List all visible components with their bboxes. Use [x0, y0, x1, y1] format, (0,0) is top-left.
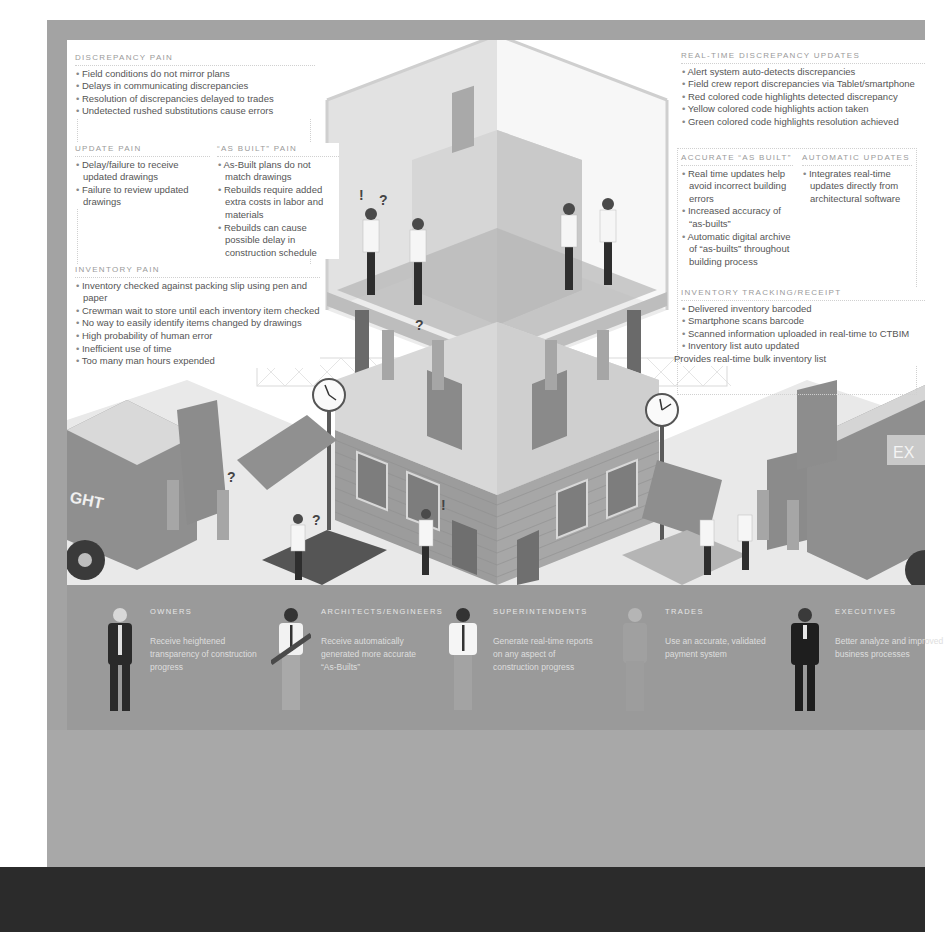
svg-text:!: !: [441, 497, 446, 513]
infographic-poster: GHT EX: [67, 40, 925, 585]
list-item: Increased accuracy of “as-builts”: [681, 205, 793, 230]
list-item: Field conditions do not mirror plans: [75, 68, 315, 81]
real-time-updates-panel: Real-Time Discrepancy Updates Alert syst…: [681, 50, 925, 129]
list-item: High probability of human error: [75, 330, 320, 343]
role-trades: Trades Use an accurate, validated paymen…: [607, 597, 777, 722]
svg-text:!: !: [359, 187, 364, 203]
update-pain-panel: Update Pain Delay/failure to receive upd…: [75, 143, 210, 209]
owner-figure-icon: [100, 605, 140, 715]
list-item: Smartphone scans barcode: [681, 315, 925, 328]
accurate-as-built-panel: Accurate “As Built” Real time updates he…: [681, 152, 793, 268]
list-item: Integrates real-time updates directly fr…: [802, 168, 912, 206]
as-built-pain-panel: “As Built” Pain As-Built plans do not ma…: [217, 143, 339, 259]
list-item: Undetected rushed substitutions cause er…: [75, 105, 315, 118]
automatic-updates-panel: Automatic Updates Integrates real-time u…: [802, 152, 912, 205]
inventory-pain-panel: Inventory Pain Inventory checked against…: [75, 264, 320, 368]
svg-text:EX: EX: [893, 444, 915, 461]
list-item: Too many man hours expended: [75, 355, 320, 368]
update-pain-title: Update Pain: [75, 143, 210, 157]
as-built-pain-title: “As Built” Pain: [217, 143, 339, 157]
role-name: Trades: [665, 607, 704, 616]
role-description: Better analyze and improved business pro…: [835, 635, 945, 661]
role-description: Use an accurate, validated payment syste…: [665, 635, 775, 661]
role-description: Receive heightened transparency of const…: [150, 635, 260, 674]
role-superintendents: Superintendents Generate real-time repor…: [435, 597, 605, 722]
list-item: As-Built plans do not match drawings: [217, 159, 339, 184]
inventory-tracking-title: Inventory Tracking/Receipt: [681, 287, 925, 301]
inventory-tracking-footer: Provides real-time bulk inventory list: [681, 353, 925, 366]
list-item: Resolution of discrepancies delayed to t…: [75, 93, 315, 106]
role-executives: Executives Better analyze and improved b…: [777, 597, 947, 722]
role-name: Executives: [835, 607, 897, 616]
list-item: Alert system auto-detects discrepancies: [681, 66, 925, 79]
list-item: Yellow colored code highlights action ta…: [681, 103, 925, 116]
automatic-updates-title: Automatic Updates: [802, 152, 912, 166]
lower-blank-panel: [47, 730, 925, 867]
list-item: Delivered inventory barcoded: [681, 303, 925, 316]
role-owners: Owners Receive heightened transparency o…: [92, 597, 262, 722]
stakeholder-roles-band: Owners Receive heightened transparency o…: [67, 585, 925, 730]
list-item: Delay/failure to receive updated drawing…: [75, 159, 210, 184]
list-item: Inventory checked against packing slip u…: [75, 280, 320, 305]
inventory-pain-title: Inventory Pain: [75, 264, 320, 278]
executive-figure-icon: [785, 605, 825, 715]
list-item: Automatic digital archive of “as-builts”…: [681, 231, 793, 269]
list-item: Red colored code highlights detected dis…: [681, 91, 925, 104]
role-architects-engineers: Architects/Engineers Receive automatical…: [263, 597, 433, 722]
list-item: Green colored code highlights resolution…: [681, 116, 925, 129]
role-name: Superintendents: [493, 607, 588, 616]
list-item: Crewman wait to store until each invento…: [75, 305, 320, 318]
discrepancy-pain-panel: Discrepancy Pain Field conditions do not…: [75, 52, 315, 118]
list-item: Rebuilds can cause possible delay in con…: [217, 222, 339, 260]
svg-text:?: ?: [227, 469, 236, 485]
list-item: Field crew report discrepancies via Tabl…: [681, 78, 925, 91]
trades-figure-icon: [615, 605, 655, 715]
role-name: Architects/Engineers: [321, 607, 443, 616]
list-item: Inefficient use of time: [75, 343, 320, 356]
bottom-dark-bar: [0, 867, 925, 932]
accurate-as-built-title: Accurate “As Built”: [681, 152, 793, 166]
list-item: Real time updates help avoid incorrect b…: [681, 168, 793, 206]
list-item: Failure to review updated drawings: [75, 184, 210, 209]
svg-text:?: ?: [415, 317, 424, 333]
real-time-updates-title: Real-Time Discrepancy Updates: [681, 50, 925, 64]
role-description: Receive automatically generated more acc…: [321, 635, 431, 674]
list-item: Rebuilds require added extra costs in la…: [217, 184, 339, 222]
svg-text:?: ?: [312, 512, 321, 528]
role-description: Generate real-time reports on any aspect…: [493, 635, 603, 674]
svg-text:?: ?: [379, 192, 388, 208]
list-item: Scanned information uploaded in real-tim…: [681, 328, 925, 341]
architect-figure-icon: [271, 605, 311, 715]
list-item: Inventory list auto updated: [681, 340, 925, 353]
list-item: Delays in communicating discrepancies: [75, 80, 315, 93]
discrepancy-pain-title: Discrepancy Pain: [75, 52, 315, 66]
list-item: No way to easily identify items changed …: [75, 317, 320, 330]
inventory-tracking-panel: Inventory Tracking/Receipt Delivered inv…: [681, 287, 925, 366]
superintendent-figure-icon: [443, 605, 483, 715]
role-name: Owners: [150, 607, 192, 616]
